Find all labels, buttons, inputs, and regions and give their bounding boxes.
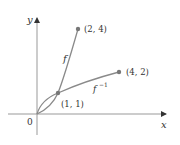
point-2-4-label: (2, 4): [84, 24, 107, 34]
point-4-2: [117, 70, 121, 74]
y-axis-label: y: [26, 14, 33, 25]
origin-label: 0: [27, 117, 33, 127]
point-1-1-label: (1, 1): [61, 99, 84, 109]
function-inverse-diagram: y x 0 f f −1 (1, 1) (2, 4) (4, 2): [0, 0, 180, 145]
x-axis-label: x: [161, 119, 167, 130]
curve-f-inverse-label: f: [92, 84, 98, 94]
point-4-2-label: (4, 2): [126, 67, 149, 77]
point-2-4: [76, 27, 80, 31]
curve-f-inverse-sup: −1: [99, 81, 108, 88]
point-1-1: [56, 91, 60, 95]
